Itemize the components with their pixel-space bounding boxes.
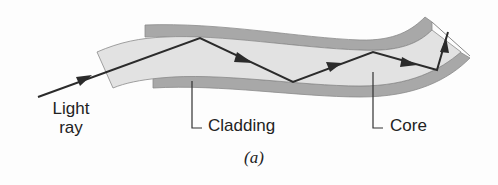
core-label: Core bbox=[390, 116, 427, 135]
light-ray-label: Light ray bbox=[43, 99, 99, 137]
light-ray-label-line1: Light bbox=[43, 99, 99, 118]
light-ray-label-line2: ray bbox=[43, 118, 99, 137]
arrowhead-icon bbox=[76, 75, 92, 86]
cladding-label: Cladding bbox=[208, 116, 275, 135]
optical-fiber-figure: Light ray Cladding Core (a) bbox=[0, 0, 498, 185]
figure-caption: (a) bbox=[244, 148, 264, 168]
cladding-leader-line bbox=[192, 81, 202, 128]
